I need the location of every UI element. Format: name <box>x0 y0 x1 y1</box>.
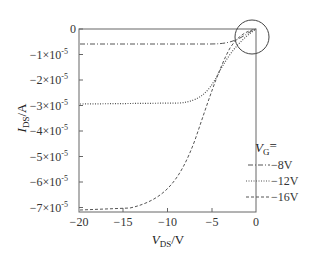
series-minus16v <box>80 29 256 210</box>
svg-text:−7×10-5: −7×10-5 <box>30 200 68 215</box>
plot-frame <box>79 29 256 212</box>
y-tick-0: 0 <box>70 22 76 36</box>
y-tick-labels: 0 −1×10-5 −2×10-5 −3×10-5 −4×10-5 −5×10-… <box>30 22 76 215</box>
svg-text:−6×10-5: −6×10-5 <box>30 174 68 189</box>
legend-item-minus16v: −16V <box>271 190 299 204</box>
svg-text:VG=: VG= <box>255 138 277 157</box>
svg-text:0: 0 <box>253 215 259 229</box>
y-axis-label: IDS/A <box>14 103 31 133</box>
legend-item-minus8v: −8V <box>271 158 293 172</box>
iv-chart: 0 −1×10-5 −2×10-5 −3×10-5 −4×10-5 −5×10-… <box>0 0 324 258</box>
svg-text:−1×10-5: −1×10-5 <box>30 47 68 62</box>
y-ticks <box>79 29 212 212</box>
svg-text:−15: −15 <box>114 215 133 229</box>
svg-text:−3×10-5: −3×10-5 <box>30 98 68 113</box>
svg-text:−5: −5 <box>206 215 219 229</box>
legend-item-minus12v: −12V <box>271 174 299 188</box>
svg-text:−4×10-5: −4×10-5 <box>30 123 68 138</box>
x-axis-label: VDS/V <box>152 232 185 249</box>
svg-text:−5×10-5: −5×10-5 <box>30 149 68 164</box>
svg-text:−10: −10 <box>158 215 177 229</box>
svg-text:−2×10-5: −2×10-5 <box>30 72 68 87</box>
legend: VG= −8V −12V −16V <box>246 138 299 204</box>
series-minus8v <box>80 29 256 44</box>
x-tick-labels: −20 −15 −10 −5 0 <box>70 215 259 229</box>
series-minus12v <box>80 29 256 104</box>
svg-text:−20: −20 <box>70 215 89 229</box>
